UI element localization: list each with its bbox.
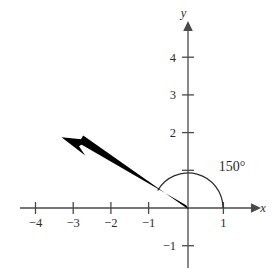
x-tick-label-pos1: 1 <box>220 216 226 230</box>
terminal-ray-shaft <box>79 135 189 209</box>
y-axis-arrowhead-icon <box>183 21 193 31</box>
y-tick-label-neg1: −1 <box>163 239 176 253</box>
x-axis-label: x <box>259 201 266 215</box>
x-tick-label-neg3: −3 <box>67 216 80 230</box>
angle-diagram-figure: y x −4 −3 −2 −1 1 4 3 2 −1 150° <box>0 0 278 276</box>
y-axis-label: y <box>179 6 187 20</box>
x-tick-label-neg4: −4 <box>29 216 43 230</box>
angle-arc <box>158 173 223 208</box>
terminal-ray-arrowhead-icon <box>62 137 89 155</box>
angle-label: 150° <box>219 159 246 174</box>
y-tick-label-2: 2 <box>170 126 176 140</box>
x-tick-label-neg2: −2 <box>104 216 117 230</box>
y-tick-label-4: 4 <box>170 51 177 65</box>
coordinate-plane-svg: y x −4 −3 −2 −1 1 4 3 2 −1 150° <box>0 0 278 276</box>
x-tick-label-neg1: −1 <box>142 216 155 230</box>
y-tick-label-3: 3 <box>170 88 176 102</box>
